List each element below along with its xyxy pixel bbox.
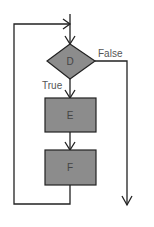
node-f-label: F xyxy=(67,162,73,173)
flowchart: D False True E F xyxy=(0,0,154,227)
process-node-e: E xyxy=(45,98,96,132)
process-node-f: F xyxy=(45,150,96,185)
false-branch-line xyxy=(95,61,127,205)
decision-node-d: D xyxy=(47,44,95,79)
node-e-label: E xyxy=(67,110,74,121)
false-label: False xyxy=(98,48,123,59)
true-label: True xyxy=(42,80,63,91)
node-d-label: D xyxy=(66,56,73,67)
